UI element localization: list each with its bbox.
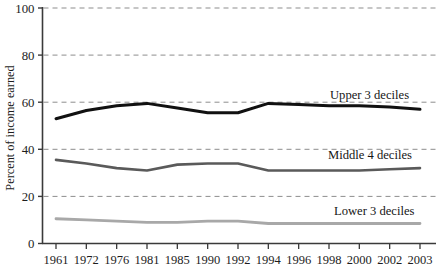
x-tick-label-1990: 1990	[195, 253, 220, 267]
x-tick-label-1985: 1985	[165, 253, 190, 267]
x-tick-label-1972: 1972	[74, 253, 99, 267]
y-tick-label-80: 80	[22, 49, 35, 63]
y-tick-label-40: 40	[22, 143, 35, 157]
x-tick-label-1992: 1992	[226, 253, 251, 267]
x-tick-label-1961: 1961	[44, 253, 69, 267]
series-label-middle-4-deciles: Middle 4 deciles	[328, 148, 412, 162]
y-tick-label-20: 20	[22, 190, 35, 204]
y-axis-tick-labels: 020406080100	[15, 2, 34, 252]
x-tick-label-2002: 2002	[377, 253, 402, 267]
series-line-lower-3-deciles	[56, 219, 420, 224]
series-label-lower-3-deciles: Lower 3 deciles	[334, 204, 415, 218]
chart-container: 020406080100 196119721976198119851990199…	[0, 0, 442, 277]
y-tick-label-100: 100	[15, 2, 34, 16]
y-axis-title: Percent of income earned	[3, 65, 17, 190]
x-tick-label-1976: 1976	[104, 253, 129, 267]
x-tick-label-1981: 1981	[135, 253, 160, 267]
series-line-upper-3-deciles	[56, 103, 420, 118]
income-distribution-line-chart: 020406080100 196119721976198119851990199…	[0, 0, 442, 277]
x-axis-tick-labels: 1961197219761981198519901992199419961998…	[44, 253, 433, 267]
x-tick-label-1994: 1994	[256, 253, 282, 267]
x-axis-ticks	[56, 244, 420, 250]
y-tick-label-0: 0	[28, 237, 34, 251]
y-tick-label-60: 60	[22, 96, 35, 110]
series-label-upper-3-deciles: Upper 3 deciles	[330, 88, 409, 102]
y-axis-title-group: Percent of income earned	[3, 65, 17, 190]
x-tick-label-2003: 2003	[408, 253, 433, 267]
x-tick-label-2000: 2000	[347, 253, 372, 267]
x-tick-label-1998: 1998	[317, 253, 342, 267]
x-tick-label-1996: 1996	[286, 253, 311, 267]
